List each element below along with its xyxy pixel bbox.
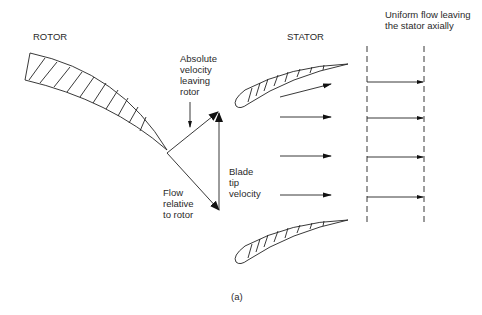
absolute-velocity-arrow [167,112,218,153]
absolute-velocity-label: Absolute velocity leaving rotor [180,53,217,97]
stator-label: STATOR [287,31,324,42]
uniform-flow-boundaries [367,46,424,222]
stator-flow-arrows [280,84,331,195]
rotor-label: ROTOR [33,31,67,42]
rotor-stator-diagram [0,0,482,315]
uniform-flow-label: Uniform flow leaving the stator axially [385,9,471,31]
stator-blade-bottom [235,220,348,264]
blade-tip-velocity-label: Blade tip velocity [229,166,261,199]
uniform-flow-arrows [367,82,423,197]
rotor-blade [25,53,167,150]
figure-caption: (a) [231,291,243,302]
stator-blade-top [235,64,348,108]
flow-relative-label: Flow relative to rotor [163,187,194,220]
